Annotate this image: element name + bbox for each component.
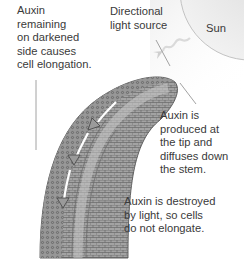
label-light-source: Directional light source bbox=[110, 5, 167, 32]
label-sun: Sun bbox=[206, 22, 226, 36]
label-darkened-side: Auxin remaining on darkened side causes … bbox=[17, 4, 92, 72]
label-tip-production: Auxin is produced at the tip and diffuse… bbox=[160, 109, 228, 177]
label-auxin-destroyed: Auxin is destroyed by light, so cells do… bbox=[124, 195, 215, 236]
